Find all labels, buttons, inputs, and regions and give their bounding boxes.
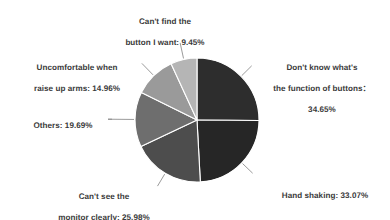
- pie-label-line: Can't see the: [32, 192, 176, 203]
- pie-slices: [135, 58, 259, 182]
- pie-label-uncomfortable-raise-up-arms: Uncomfortable when raise up arms: 14.96%: [12, 52, 142, 105]
- pie-chart-figure: Can't find the button I want: 9.45% Don'…: [0, 0, 390, 220]
- pie-label-line: 34.65%: [256, 105, 388, 116]
- pie-label-others: Others: 19.69%: [18, 110, 108, 142]
- leader-line-dont-know-function-of-buttons: [242, 66, 252, 76]
- pie-label-hand-shaking: Hand shaking: 33.07%: [262, 180, 388, 212]
- pie-label-dont-know-function-of-buttons: Don't know what's the function of button…: [256, 52, 388, 127]
- pie-label-line: the function of buttons：: [256, 84, 388, 95]
- pie-label-line: button I want: 9.45%: [96, 38, 234, 49]
- pie-label-line: Can't find the: [96, 17, 234, 28]
- pie-slice-hand-shaking[interactable]: [197, 120, 259, 182]
- pie-label-line: Don't know what's: [256, 63, 388, 74]
- pie-label-line: Others: 19.69%: [18, 121, 108, 132]
- pie-label-line: raise up arms: 14.96%: [12, 84, 142, 95]
- pie-label-cant-see-monitor-clearly: Can't see the monitor clearly: 25.98%: [32, 181, 176, 220]
- pie-label-line: Hand shaking: 33.07%: [262, 191, 388, 202]
- pie-label-line: monitor clearly: 25.98%: [32, 213, 176, 220]
- leader-line-hand-shaking: [243, 164, 253, 174]
- leader-line-uncomfortable-raise-up-arms: [142, 63, 153, 74]
- pie-label-line: Uncomfortable when: [12, 63, 142, 74]
